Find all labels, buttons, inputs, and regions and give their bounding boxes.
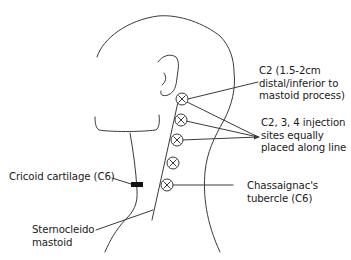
front-neck-outline [105,133,137,252]
label-c234-injection-sites: C2, 3, 4 injection sites equally placed … [261,117,346,155]
x-circle-icon [176,93,188,105]
neck-block-diagram: C2 (1.5-2cm distal/inferior to mastoid p… [0,0,351,260]
x-circle-icon [175,114,187,126]
leader-site-1 [187,102,258,137]
label-chassaignac-tubercle: Chassaignac's tubercle (C6) [247,180,318,205]
label-c234-line-1: C2, 3, 4 injection [261,117,346,130]
cricoid-marker [131,182,143,187]
x-circle-icon [167,157,179,169]
head-outline [97,16,235,252]
leader-site-3 [182,137,258,140]
arrowhead-icon [254,135,260,140]
label-scm-line-2: mastoid [32,237,94,250]
label-c2-line-3: mastoid process) [259,90,345,103]
label-scm-line-1: Sternocleido [32,224,94,237]
leader-scm [96,210,153,230]
label-c2-line-2: distal/inferior to [259,78,345,91]
label-c234-line-2: sites equally [261,130,346,143]
ear-inner [162,73,166,85]
label-c2-line-1: C2 (1.5-2cm [259,65,345,78]
label-cricoid-line-1: Cricoid cartilage (C6) [9,171,115,184]
x-circle-icon [161,179,173,191]
label-c234-line-3: placed along line [261,142,346,155]
label-c2: C2 (1.5-2cm distal/inferior to mastoid p… [259,65,345,103]
label-cricoid-cartilage: Cricoid cartilage (C6) [9,171,115,184]
label-chassaignac-line-2: tubercle (C6) [247,193,318,206]
label-chassaignac-line-1: Chassaignac's [247,180,318,193]
label-sternocleidomastoid: Sternocleido mastoid [32,224,94,249]
ear-outline [158,55,178,95]
leader-c2 [188,82,258,99]
jaw-outline [95,115,159,132]
x-circle-icon [171,134,183,146]
